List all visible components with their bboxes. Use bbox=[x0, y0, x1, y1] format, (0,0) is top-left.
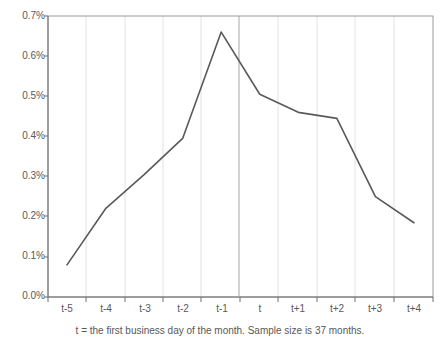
plot-area bbox=[0, 0, 440, 345]
y-axis-ticks bbox=[44, 16, 48, 297]
chart-container: 0.7% 0.6% 0.5% 0.4% 0.3% 0.2% 0.1% 0.0% … bbox=[0, 0, 440, 345]
plot-background bbox=[48, 16, 433, 297]
x-axis-ticks bbox=[48, 297, 433, 302]
chart-caption: t = the first business day of the month.… bbox=[0, 325, 440, 337]
